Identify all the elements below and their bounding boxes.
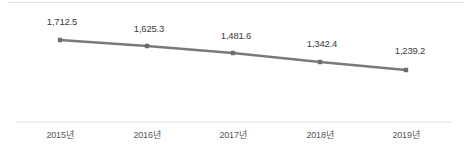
data-point-marker[interactable]: [318, 60, 322, 64]
x-axis-category-label: 2017년: [219, 130, 246, 141]
data-point-marker[interactable]: [58, 38, 62, 42]
data-point-marker[interactable]: [404, 68, 408, 72]
data-point-value-label: 1,481.6: [221, 30, 251, 41]
x-axis-category-label: 2019년: [392, 130, 419, 141]
data-point-value-label: 1,625.3: [134, 23, 164, 34]
x-axis-category-label: 2016년: [133, 130, 160, 141]
plot-area: 1,712.51,625.31,481.61,342.41,239.2 2015…: [0, 0, 472, 163]
line-chart-figure: 1,712.51,625.31,481.61,342.41,239.2 2015…: [0, 0, 472, 163]
data-point-value-label: 1,712.5: [47, 16, 77, 27]
x-axis-category-label: 2015년: [46, 130, 73, 141]
x-axis-category-label: 2018년: [306, 130, 333, 141]
data-point-marker[interactable]: [231, 51, 235, 55]
data-point-value-label: 1,239.2: [395, 45, 425, 56]
data-point-marker[interactable]: [145, 44, 149, 48]
data-point-value-label: 1,342.4: [307, 38, 337, 49]
